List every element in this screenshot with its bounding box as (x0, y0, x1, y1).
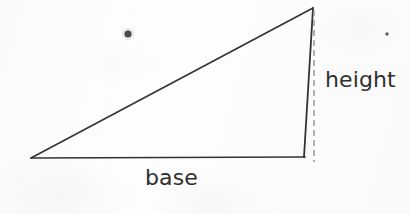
triangle-base-line (31, 157, 305, 158)
diagram-canvas: base height (0, 0, 410, 214)
triangle-figure (0, 0, 410, 214)
small-ink-spot (385, 32, 388, 35)
triangle-right-side-line (304, 8, 313, 157)
base-label: base (145, 167, 198, 189)
height-label: height (325, 69, 396, 91)
triangle-hypotenuse-line (31, 8, 313, 158)
large-ink-spot-halo (122, 28, 134, 40)
